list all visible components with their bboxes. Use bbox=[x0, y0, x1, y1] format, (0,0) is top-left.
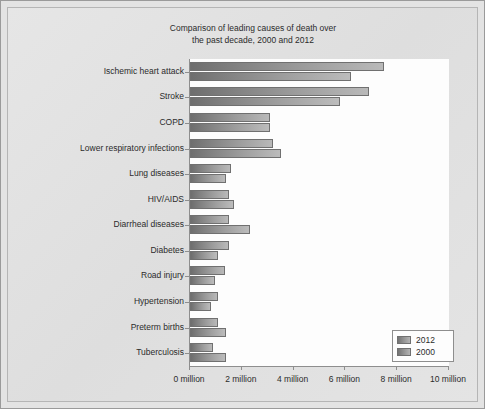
bar-2000 bbox=[190, 174, 226, 183]
y-axis-tick-mark bbox=[185, 302, 189, 303]
x-axis-tick-mark bbox=[293, 366, 294, 370]
chart-figure: Comparison of leading causes of death ov… bbox=[0, 0, 485, 409]
y-axis-label: Tuberculosis bbox=[136, 347, 184, 357]
chart-title-line-2: the past decade, 2000 and 2012 bbox=[68, 34, 438, 46]
bar-group bbox=[190, 215, 449, 235]
bar-2000 bbox=[190, 251, 218, 260]
chart-title: Comparison of leading causes of death ov… bbox=[68, 22, 438, 46]
y-axis-label: Hypertension bbox=[134, 296, 184, 306]
bar-group bbox=[190, 292, 449, 312]
bar-2012 bbox=[190, 190, 229, 199]
y-axis-tick-mark bbox=[185, 97, 189, 98]
bar-2012 bbox=[190, 343, 213, 352]
bar-group bbox=[190, 266, 449, 286]
x-axis-tick-mark bbox=[344, 366, 345, 370]
legend-swatch-2000 bbox=[397, 348, 411, 356]
y-axis-label: Road injury bbox=[141, 270, 184, 280]
y-axis-tick-mark bbox=[185, 200, 189, 201]
bar-group bbox=[190, 113, 449, 133]
x-axis-tick-label: 10 million bbox=[430, 374, 466, 384]
x-axis-tick-mark bbox=[448, 366, 449, 370]
bar-group bbox=[190, 87, 449, 107]
x-axis-tick-label: 6 million bbox=[329, 374, 360, 384]
x-axis-tick-label: 0 million bbox=[173, 374, 204, 384]
bar-2000 bbox=[190, 123, 270, 132]
y-axis-label: COPD bbox=[159, 117, 184, 127]
bar-2000 bbox=[190, 200, 234, 209]
y-axis-label: Lung diseases bbox=[129, 168, 184, 178]
y-axis-tick-mark bbox=[185, 328, 189, 329]
y-axis-label: Diabetes bbox=[150, 245, 184, 255]
y-axis-label: Stroke bbox=[159, 91, 184, 101]
y-axis-tick-mark bbox=[185, 174, 189, 175]
bar-group bbox=[190, 241, 449, 261]
legend-item-2012: 2012 bbox=[397, 334, 449, 346]
x-axis-tick-mark bbox=[241, 366, 242, 370]
y-axis-category-labels: Ischemic heart attackStrokeCOPDLower res… bbox=[8, 59, 184, 366]
x-axis-tick-mark bbox=[189, 366, 190, 370]
legend-swatch-2012 bbox=[397, 336, 411, 344]
bar-2000 bbox=[190, 328, 226, 337]
bar-2000 bbox=[190, 97, 340, 106]
x-axis-tick-label: 2 million bbox=[225, 374, 256, 384]
y-axis-label: Lower respiratory infections bbox=[80, 143, 184, 153]
bar-2012 bbox=[190, 266, 225, 275]
bar-group bbox=[190, 139, 449, 159]
legend-item-2000: 2000 bbox=[397, 346, 449, 358]
y-axis-label: Preterm births bbox=[131, 322, 184, 332]
y-axis-label: Diarrheal diseases bbox=[114, 219, 184, 229]
legend-label-2012: 2012 bbox=[416, 335, 435, 345]
bar-2012 bbox=[190, 215, 229, 224]
x-axis-tick-label: 4 million bbox=[277, 374, 308, 384]
x-axis-line bbox=[189, 366, 448, 367]
bar-2000 bbox=[190, 353, 226, 362]
figure-inner-frame: Comparison of leading causes of death ov… bbox=[7, 7, 478, 402]
y-axis-tick-mark bbox=[185, 149, 189, 150]
bar-2000 bbox=[190, 225, 250, 234]
y-axis-label: HIV/AIDS bbox=[148, 194, 184, 204]
y-axis-label: Ischemic heart attack bbox=[104, 66, 184, 76]
bar-2012 bbox=[190, 318, 218, 327]
bar-2012 bbox=[190, 164, 231, 173]
bar-2000 bbox=[190, 149, 281, 158]
y-axis-tick-mark bbox=[185, 353, 189, 354]
legend-label-2000: 2000 bbox=[416, 347, 435, 357]
bar-2000 bbox=[190, 72, 351, 81]
bar-2000 bbox=[190, 276, 215, 285]
bar-2012 bbox=[190, 292, 218, 301]
y-axis-tick-mark bbox=[185, 123, 189, 124]
bar-2012 bbox=[190, 87, 369, 96]
bar-group bbox=[190, 190, 449, 210]
bar-group bbox=[190, 164, 449, 184]
bar-2012 bbox=[190, 241, 229, 250]
bar-group bbox=[190, 62, 449, 82]
y-axis-tick-mark bbox=[185, 225, 189, 226]
chart-title-line-1: Comparison of leading causes of death ov… bbox=[68, 22, 438, 34]
y-axis-tick-mark bbox=[185, 251, 189, 252]
y-axis-tick-mark bbox=[185, 276, 189, 277]
bar-2012 bbox=[190, 113, 270, 122]
x-axis-tick-mark bbox=[396, 366, 397, 370]
y-axis-tick-mark bbox=[185, 72, 189, 73]
bar-2000 bbox=[190, 302, 211, 311]
x-axis-tick-label: 8 million bbox=[381, 374, 412, 384]
bar-2012 bbox=[190, 139, 273, 148]
chart-legend: 2012 2000 bbox=[392, 330, 454, 362]
bar-2012 bbox=[190, 62, 384, 71]
plot-area bbox=[189, 59, 449, 366]
